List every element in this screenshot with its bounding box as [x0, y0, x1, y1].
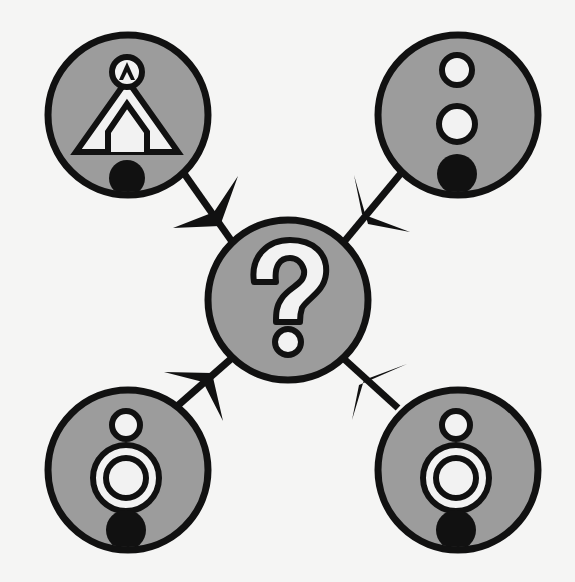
diagram-canvas: ?	[0, 0, 575, 582]
edge-bottom-left	[175, 358, 232, 408]
node-bottom-left[interactable]	[48, 390, 208, 550]
edge-top-right	[343, 172, 402, 243]
stacked-circles-symbol-icon	[437, 55, 477, 194]
edge-bottom-right	[343, 358, 398, 408]
node-top-right[interactable]	[378, 35, 538, 195]
node-bottom-right[interactable]	[378, 390, 538, 550]
node-top-left[interactable]	[48, 35, 208, 196]
